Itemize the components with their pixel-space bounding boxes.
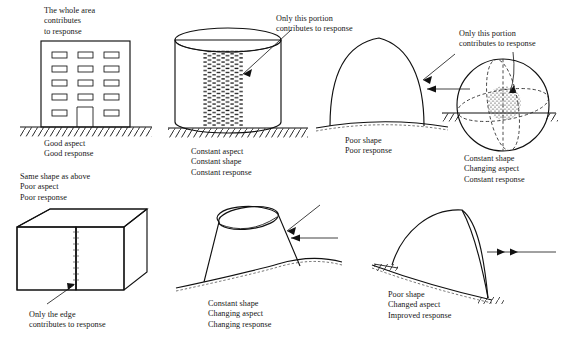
asym-dome-caption: Poor shape Changed aspect Improved respo…: [388, 290, 451, 321]
diagram-page: The whole area contributes to response G…: [0, 0, 562, 345]
panel-building-artwork: [20, 41, 152, 136]
panel-sphere-artwork: [442, 52, 558, 153]
sphere-caption: Constant shape Changing aspect Constant …: [464, 154, 525, 185]
tilted-cylinder-caption: Constant shape Changing aspect Changing …: [208, 299, 271, 330]
dome-caption: Poor shape Poor response: [345, 136, 392, 157]
panel-cube-artwork: [17, 209, 147, 304]
cylinder-annotation: Only this portion contributes to respons…: [276, 14, 353, 35]
building-caption: Good aspect Good response: [44, 139, 94, 160]
panel-cylinder-artwork: [168, 28, 308, 137]
cylinder-caption: Constant aspect Constant shape Constant …: [191, 147, 252, 178]
sphere-annotation: Only this portion contributes to respons…: [459, 29, 536, 50]
cube-annotation-bottom: Only the edge contributes to response: [29, 310, 106, 331]
panel-tilted-cylinder-artwork: [176, 203, 342, 291]
cube-annotation-top: Same shape as above Poor aspect Poor res…: [20, 172, 90, 203]
building-annotation: The whole area contributes to response: [44, 6, 95, 37]
